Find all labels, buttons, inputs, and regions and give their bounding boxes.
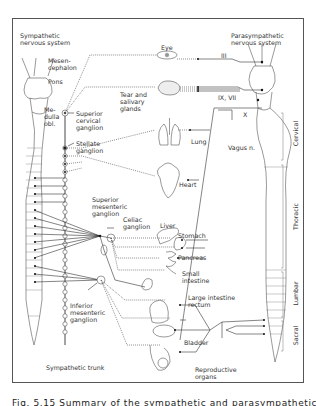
region-cervical: Cervical	[292, 119, 299, 149]
left-brainstem-icon	[22, 58, 54, 345]
sympathetic-title: Sympathetic nervous system	[20, 32, 70, 46]
right-cord-segments	[264, 167, 288, 334]
intestine-icon	[166, 251, 176, 274]
label-tear-salivary: Tear and salivary glands	[120, 91, 147, 112]
cord-dots	[34, 155, 101, 283]
sym-solid-branch	[100, 236, 145, 287]
label-superior-mesenteric-ganglion: Superior mesenteric ganglion	[92, 196, 127, 217]
label-sympathetic-trunk: Sympathetic trunk	[46, 364, 104, 371]
region-thoracic: Thoracic	[292, 202, 299, 232]
region-sacral: Sacral	[292, 321, 299, 351]
label-mesencephalon: Mesen- cephalon	[48, 57, 77, 71]
region-lumbar: Lumbar	[292, 279, 299, 309]
para-dotted	[177, 59, 198, 130]
label-pons: Pons	[48, 78, 63, 85]
parasympathetic-nerves	[175, 59, 264, 352]
label-cn10: X	[243, 111, 247, 118]
label-stellate-ganglion: Stellate ganglion	[76, 140, 103, 154]
label-eye: Eye	[161, 44, 173, 51]
kidney-icon	[142, 279, 152, 290]
heart-icon	[157, 163, 179, 198]
sympathetic-chain	[62, 110, 68, 345]
label-inferior-mesenteric-ganglion: Inferior mesenteric ganglion	[70, 302, 105, 323]
bladder-icon	[153, 325, 175, 337]
label-lung: Lung	[191, 138, 206, 145]
reproductive-icon	[150, 345, 170, 370]
label-reproductive: Reproductive organs	[195, 366, 237, 380]
eye-icon	[157, 51, 177, 59]
label-small-intestine: Small intestine	[182, 270, 209, 284]
label-heart: Heart	[179, 181, 197, 188]
label-bladder: Bladder	[184, 339, 208, 346]
label-celiac-ganglion: Celiac ganglion	[123, 216, 150, 230]
label-vagus: Vagus n.	[228, 144, 255, 151]
stomach-icon	[174, 238, 186, 251]
region-brackets	[281, 113, 283, 351]
label-cn9-7: IX, VII	[218, 94, 236, 101]
right-brainstem-icon	[248, 44, 291, 362]
para-dots	[174, 58, 265, 353]
figure-caption: Fig. 5.15 Summary of the sympathetic and…	[12, 398, 316, 406]
parasympathetic-title: Parasympathetic nervous system	[231, 32, 284, 46]
label-stomach: Stomach	[178, 232, 206, 239]
label-liver: Liver	[160, 222, 175, 229]
left-cord-segments	[26, 148, 42, 316]
label-pancreas: Pancreas	[178, 254, 206, 261]
label-medulla: Me- dulla obl.	[44, 106, 59, 127]
gland-icon	[158, 81, 180, 95]
label-superior-cervical-ganglion: Superior cervical ganglion	[76, 110, 103, 131]
label-cn3: III	[221, 52, 227, 59]
large-intestine-icon	[150, 300, 169, 323]
liver-icon	[157, 228, 179, 244]
preganglionic-lines	[34, 178, 100, 282]
label-large-intestine: Large intestine rectum	[188, 294, 235, 308]
lung-icon	[159, 118, 181, 145]
